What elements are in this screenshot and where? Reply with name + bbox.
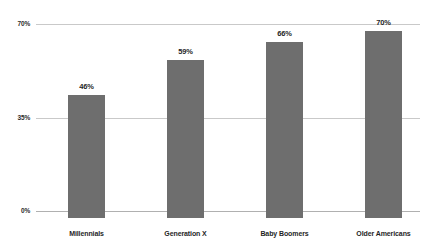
bar-value-older-americans: 70%	[376, 19, 390, 27]
bar-value-generation-x: 59%	[178, 48, 192, 56]
plot-area: 70% 35% 0% 46% Millennials 59% Generatio…	[36, 18, 420, 218]
bar-group-older-americans[interactable]: 70% Older Americans	[365, 25, 402, 218]
bar-value-baby-boomers: 66%	[277, 30, 291, 38]
ytick-label-70: 70%	[18, 21, 30, 28]
bar-baby-boomers[interactable]	[266, 42, 303, 218]
bar-value-millennials: 46%	[79, 83, 93, 91]
bar-group-millennials[interactable]: 46% Millennials	[68, 25, 105, 218]
xcat-label-millennials: Millennials	[69, 230, 104, 237]
xcat-label-baby-boomers: Baby Boomers	[260, 230, 308, 237]
bar-group-generation-x[interactable]: 59% Generation X	[167, 25, 204, 218]
bar-millennials[interactable]	[68, 95, 105, 218]
ytick-label-0: 0%	[21, 208, 30, 215]
ytick-label-35: 35%	[18, 115, 30, 122]
xcat-label-older-americans: Older Americans	[356, 230, 410, 237]
bar-chart: 70% 35% 0% 46% Millennials 59% Generatio…	[0, 0, 435, 248]
bar-generation-x[interactable]	[167, 60, 204, 218]
bar-group-baby-boomers[interactable]: 66% Baby Boomers	[266, 25, 303, 218]
bar-older-americans[interactable]	[365, 31, 402, 218]
xcat-label-generation-x: Generation X	[164, 230, 206, 237]
